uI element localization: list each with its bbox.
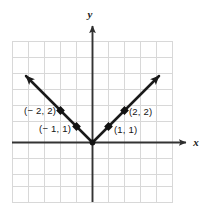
point-label-2-2: (2, 2)	[129, 106, 152, 117]
x-axis-label: x	[192, 136, 199, 148]
point-label-neg2-2: (− 2, 2)	[24, 105, 56, 116]
point-label-neg1-1: (− 1, 1)	[39, 123, 71, 134]
coordinate-plane-svg: (− 2, 2) (− 1, 1) (1, 1) (2, 2) y x	[0, 0, 212, 214]
data-point-marker-origin	[90, 140, 96, 146]
point-label-1-1: (1, 1)	[114, 124, 137, 135]
y-axis-label: y	[86, 8, 93, 20]
absolute-value-graph-figure: (− 2, 2) (− 1, 1) (1, 1) (2, 2) y x	[0, 0, 212, 214]
